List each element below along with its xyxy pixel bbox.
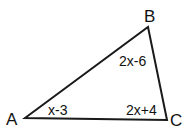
angle-label-b: 2x-6 — [119, 54, 146, 68]
vertex-label-a: A — [6, 111, 17, 128]
triangle-diagram — [0, 0, 190, 131]
vertex-label-b: B — [144, 8, 155, 25]
vertex-label-c: C — [170, 112, 182, 129]
angle-label-c: 2x+4 — [126, 103, 157, 117]
angle-label-a: x-3 — [48, 103, 67, 117]
